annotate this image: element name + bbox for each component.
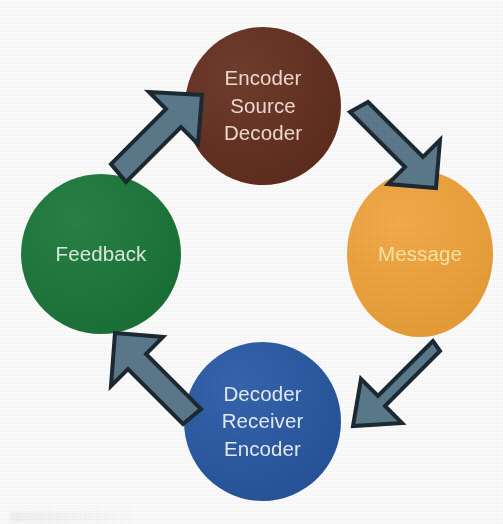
node-feedback: Feedback [21, 174, 181, 334]
node-message: Message [347, 171, 493, 337]
arrow-message-to-receiver-icon [340, 328, 446, 430]
arrow-feedback-to-source-icon [108, 87, 214, 189]
node-source-line-1: Encoder [224, 65, 301, 92]
node-source-line-3: Decoder [224, 120, 302, 147]
node-receiver-line-2: Receiver [222, 408, 304, 435]
arrow-source-to-message-icon [344, 93, 448, 193]
node-source-line-2: Source [230, 93, 296, 120]
diagram-canvas: Encoder Source Decoder Message Decoder R… [0, 0, 503, 524]
arrow-receiver-to-feedback-icon [103, 325, 208, 428]
scan-edge-artifact [10, 512, 130, 522]
node-message-label: Message [378, 241, 462, 268]
node-receiver-line-1: Decoder [223, 381, 301, 408]
node-receiver-line-3: Encoder [224, 436, 301, 463]
node-feedback-label: Feedback [56, 241, 147, 268]
